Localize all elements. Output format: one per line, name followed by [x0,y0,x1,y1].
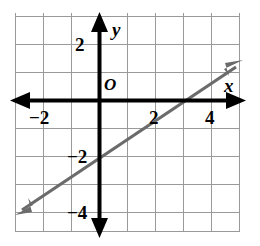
plotted-line [22,67,236,210]
y-axis-arrowhead-up [91,12,108,32]
y-axis-label: y [112,20,120,39]
x-tick-label-4: 4 [205,108,215,127]
plotted-line-group [15,60,243,215]
x-tick-label-minus-2: −2 [29,108,49,127]
x-tick-label-2: 2 [149,108,159,127]
y-tick-label-2: 2 [75,35,85,54]
origin-label: O [104,76,116,93]
x-axis-arrowhead-left [10,92,30,109]
x-axis-label: x [224,76,234,95]
y-tick-label-minus-2: −2 [67,147,87,166]
y-axis-arrowhead-down [91,218,108,238]
y-tick-label-minus-4: −4 [67,203,87,222]
y-axis-group [91,12,108,238]
coordinate-plane-figure: y x O 2 −2 −4 −2 2 4 [0,0,260,246]
